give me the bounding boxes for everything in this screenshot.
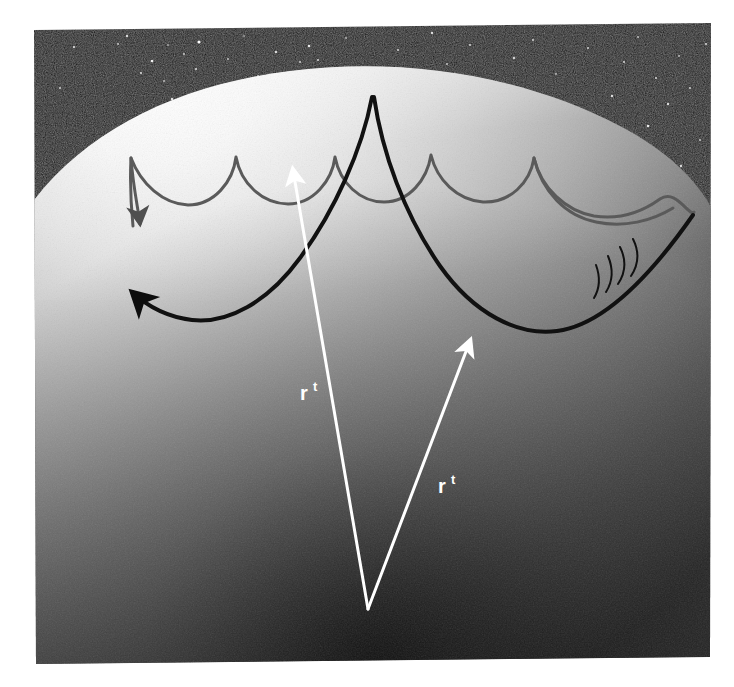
diagram-canvas: r t r t bbox=[0, 0, 734, 687]
radius-vector-right-label-base: r bbox=[438, 475, 446, 497]
photo-content: r t r t bbox=[20, 14, 730, 684]
radius-vector-right-label-superscript: t bbox=[451, 472, 456, 487]
radius-vector-left-label-base: r bbox=[300, 382, 308, 404]
figure-root: r t r t bbox=[0, 0, 734, 687]
scanned-photo-print: r t r t bbox=[0, 0, 734, 687]
radius-vector-left-label-superscript: t bbox=[313, 379, 318, 394]
